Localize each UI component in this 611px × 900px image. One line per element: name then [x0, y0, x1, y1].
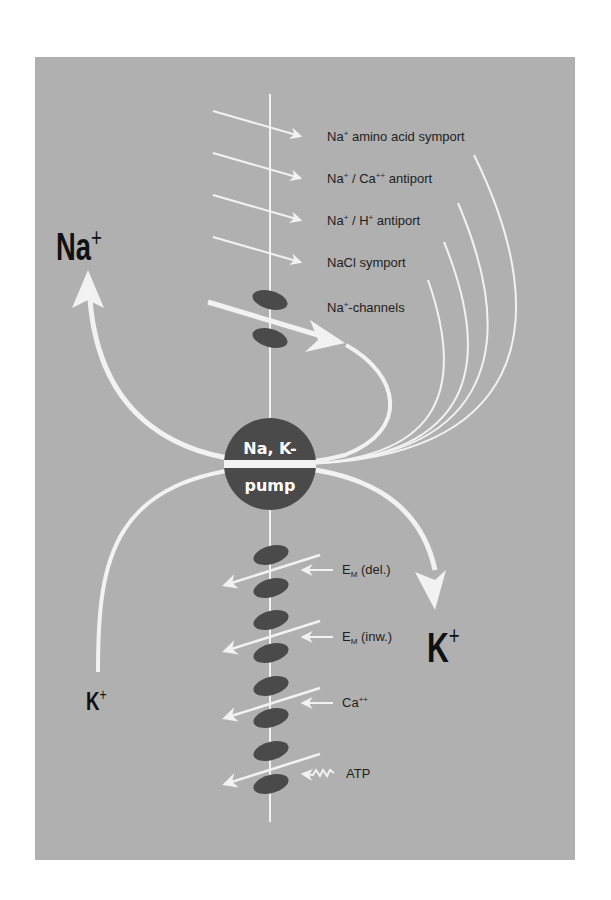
- label-atp: ATP: [346, 767, 370, 780]
- ion-label-k-right: K+: [427, 622, 460, 669]
- transporter-arrows: [213, 111, 300, 262]
- label-em-inward: EM (inw.): [342, 630, 392, 646]
- pump-label-line2: pump: [225, 478, 315, 494]
- label-na-h-antiport: Na+ / H+ antiport: [327, 214, 420, 227]
- label-na-channels: Na+-channels: [327, 301, 405, 314]
- ion-label-na: Na+: [56, 224, 102, 266]
- label-nacl-symport: NaCl symport: [327, 256, 406, 269]
- pump-label-line1: Na, K-: [225, 441, 315, 457]
- label-na-ca-antiport: Na+ / Ca++ antiport: [327, 172, 432, 185]
- ion-label-k-left: K+: [86, 686, 107, 714]
- label-calcium: Ca++: [342, 696, 368, 709]
- regulator-arrows: [303, 570, 334, 776]
- label-em-depolarization: EM (del.): [342, 563, 391, 579]
- label-na-amino-acid-symport: Na+ amino acid symport: [327, 130, 465, 143]
